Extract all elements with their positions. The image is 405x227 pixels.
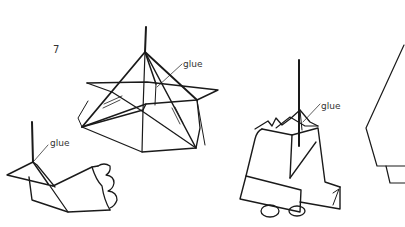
- step-number: 7: [53, 44, 59, 55]
- instruction-diagram: 7 glue glue glue: [0, 0, 405, 227]
- bird-ornament: [7, 122, 117, 212]
- glue-label-bird: glue: [50, 138, 69, 148]
- glue-label-bell: glue: [321, 101, 340, 111]
- diagram-drawing: [0, 0, 405, 227]
- partial-figure: [366, 45, 405, 183]
- star-ornament: [78, 27, 218, 152]
- glue-label-star: glue: [183, 59, 202, 69]
- bell-ornament: [240, 60, 340, 217]
